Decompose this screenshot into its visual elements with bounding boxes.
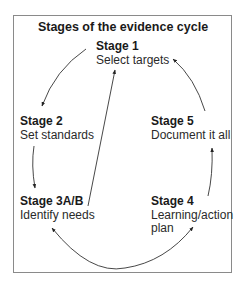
arrow-stage5-to-stage1 bbox=[173, 59, 205, 111]
arrow-stage3-to-stage4 bbox=[52, 227, 193, 269]
arrow-stage3-to-stage1 bbox=[88, 70, 115, 206]
arrow-stage2-to-stage3 bbox=[33, 146, 35, 188]
arrows-layer bbox=[0, 0, 246, 288]
arrow-stage4-to-stage5 bbox=[208, 148, 212, 196]
arrow-stage1-to-stage2 bbox=[42, 49, 86, 106]
